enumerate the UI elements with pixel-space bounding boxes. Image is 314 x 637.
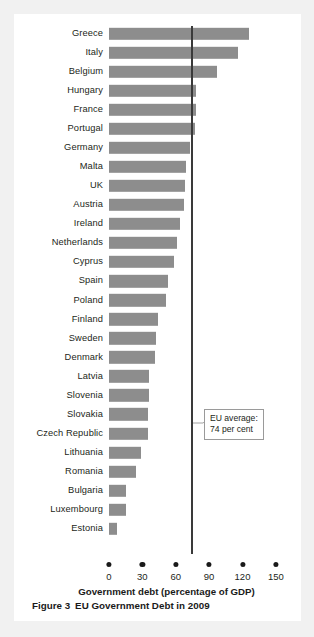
bar bbox=[109, 65, 217, 77]
annotation-line-2: 74 per cent bbox=[210, 424, 258, 435]
bar-track bbox=[109, 348, 301, 367]
bar-row: Belgium bbox=[14, 62, 301, 81]
bar-category-label: Slovenia bbox=[14, 391, 109, 400]
bar-row: Estonia bbox=[14, 519, 301, 538]
bar-category-label: Austria bbox=[14, 200, 109, 209]
bar-row: France bbox=[14, 100, 301, 119]
annotation-line-1: EU average: bbox=[210, 413, 258, 424]
bar-rows: GreeceItalyBelgiumHungaryFrancePortugalG… bbox=[14, 24, 301, 538]
bar-category-label: Estonia bbox=[14, 524, 109, 533]
bar-track bbox=[109, 119, 301, 138]
figure-number: Figure 3 bbox=[32, 600, 70, 611]
bar-track bbox=[109, 100, 301, 119]
bar-track bbox=[109, 462, 301, 481]
x-axis-tick bbox=[273, 562, 278, 567]
bar-track bbox=[109, 310, 301, 329]
bar-category-label: Romania bbox=[14, 467, 109, 476]
bar-track bbox=[109, 43, 301, 62]
bar-row: Finland bbox=[14, 310, 301, 329]
bar-row: Luxembourg bbox=[14, 500, 301, 519]
bar-row: Cyprus bbox=[14, 253, 301, 272]
bar-track bbox=[109, 367, 301, 386]
x-axis-tick bbox=[173, 562, 178, 567]
bar bbox=[109, 275, 168, 287]
bar bbox=[109, 408, 148, 420]
bar-category-label: Portugal bbox=[14, 124, 109, 133]
bar-row: Spain bbox=[14, 272, 301, 291]
bar-track bbox=[109, 214, 301, 233]
bar-row: Germany bbox=[14, 138, 301, 157]
bar-track bbox=[109, 176, 301, 195]
bar bbox=[109, 237, 177, 249]
bar-category-label: Czech Republic bbox=[14, 429, 109, 438]
bar bbox=[109, 46, 238, 58]
bar-row: Bulgaria bbox=[14, 481, 301, 500]
bar-row: Lithuania bbox=[14, 443, 301, 462]
bar-track bbox=[109, 62, 301, 81]
bar-track bbox=[109, 291, 301, 310]
bar-category-label: Denmark bbox=[14, 353, 109, 362]
bar-category-label: Latvia bbox=[14, 372, 109, 381]
bar bbox=[109, 199, 184, 211]
x-axis-tick-label: 30 bbox=[137, 571, 148, 582]
bar bbox=[109, 161, 186, 173]
bar-category-label: Sweden bbox=[14, 334, 109, 343]
bar-track bbox=[109, 138, 301, 157]
bar-category-label: Luxembourg bbox=[14, 505, 109, 514]
bar-category-label: Cyprus bbox=[14, 257, 109, 266]
bar-category-label: Lithuania bbox=[14, 448, 109, 457]
bar-row: UK bbox=[14, 176, 301, 195]
bar-category-label: Hungary bbox=[14, 86, 109, 95]
bar-category-label: Poland bbox=[14, 296, 109, 305]
bar-category-label: Ireland bbox=[14, 219, 109, 228]
x-axis-tick-label: 60 bbox=[170, 571, 181, 582]
x-axis-tick bbox=[140, 562, 145, 567]
bar-category-label: Belgium bbox=[14, 67, 109, 76]
bar-row: Netherlands bbox=[14, 234, 301, 253]
bar-category-label: Italy bbox=[14, 48, 109, 57]
bar-category-label: Greece bbox=[14, 29, 109, 38]
bar-track bbox=[109, 24, 301, 43]
bar bbox=[109, 313, 158, 325]
bar-row: Hungary bbox=[14, 81, 301, 100]
bar-track bbox=[109, 157, 301, 176]
bar bbox=[109, 427, 148, 439]
x-axis-title: Government debt (percentage of GDP) bbox=[14, 586, 301, 597]
bar-track bbox=[109, 272, 301, 291]
bar bbox=[109, 123, 195, 135]
bar-track bbox=[109, 329, 301, 348]
bar-row: Poland bbox=[14, 291, 301, 310]
bar bbox=[109, 523, 117, 535]
bar-track bbox=[109, 386, 301, 405]
bar-track bbox=[109, 253, 301, 272]
bar-track bbox=[109, 195, 301, 214]
bar-category-label: Malta bbox=[14, 162, 109, 171]
bar-category-label: France bbox=[14, 105, 109, 114]
x-axis-tick bbox=[106, 562, 111, 567]
bar-row: Romania bbox=[14, 462, 301, 481]
page-background: GreeceItalyBelgiumHungaryFrancePortugalG… bbox=[0, 0, 314, 637]
bar-row: Slovenia bbox=[14, 386, 301, 405]
bar-row: Austria bbox=[14, 195, 301, 214]
x-axis-tick-label: 90 bbox=[204, 571, 215, 582]
bar bbox=[109, 180, 185, 192]
eu-average-reference-line bbox=[191, 26, 193, 554]
bar-chart: GreeceItalyBelgiumHungaryFrancePortugalG… bbox=[14, 24, 301, 569]
bar-track bbox=[109, 500, 301, 519]
bar bbox=[109, 465, 136, 477]
bar-track bbox=[109, 443, 301, 462]
bar-category-label: Bulgaria bbox=[14, 486, 109, 495]
bar bbox=[109, 104, 196, 116]
bar-category-label: Germany bbox=[14, 143, 109, 152]
bar-track bbox=[109, 481, 301, 500]
bar-row: Latvia bbox=[14, 367, 301, 386]
bar-row: Greece bbox=[14, 24, 301, 43]
bar bbox=[109, 370, 149, 382]
bar bbox=[109, 446, 141, 458]
bar bbox=[109, 294, 166, 306]
bar bbox=[109, 218, 180, 230]
bar bbox=[109, 142, 190, 154]
bar-track bbox=[109, 234, 301, 253]
bar bbox=[109, 332, 156, 344]
x-axis-tick bbox=[240, 562, 245, 567]
